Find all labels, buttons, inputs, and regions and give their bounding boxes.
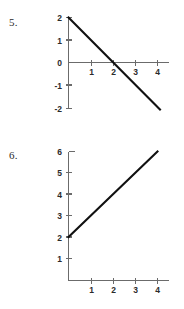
y-tick-label-1: 1 [57, 36, 62, 46]
chart-6: 6 5 4 3 2 1 1 2 3 4 [0, 140, 184, 309]
y-tick-label-0: 0 [57, 58, 62, 68]
x-tick-label-1: 1 [89, 285, 94, 295]
y-tick-label-4: 4 [57, 190, 62, 200]
data-line-6 [69, 152, 158, 238]
y-tick-label-2: 2 [57, 233, 62, 243]
problem-5: 5. 2 1 0 -1 [0, 0, 184, 140]
x-tick-label-4: 4 [155, 67, 160, 77]
y-tick-label-1: 1 [57, 254, 62, 264]
x-tick-label-2: 2 [111, 285, 116, 295]
data-line-5 [69, 18, 161, 110]
y-tick-label-6: 6 [57, 147, 62, 157]
y-tick-label-neg2: -2 [54, 104, 62, 114]
problem-6: 6. 6 5 [0, 140, 184, 309]
x-tick-label-3: 3 [133, 67, 138, 77]
x-tick-label-3: 3 [133, 285, 138, 295]
worksheet-page: 5. 2 1 0 -1 [0, 0, 184, 309]
x-tick-label-1: 1 [89, 67, 94, 77]
chart-5: 2 1 0 -1 -2 1 2 3 4 [0, 0, 184, 140]
x-tick-label-2: 2 [111, 67, 116, 77]
y-tick-label-5: 5 [57, 168, 62, 178]
y-tick-label-neg1: -1 [54, 81, 62, 91]
y-tick-label-3: 3 [57, 211, 62, 221]
y-tick-label-2: 2 [57, 13, 62, 23]
x-tick-label-4: 4 [155, 285, 160, 295]
